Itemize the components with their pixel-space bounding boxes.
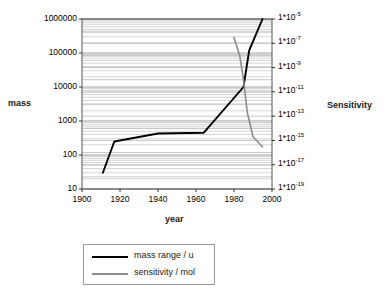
y-tick-label: 10: [18, 184, 77, 193]
legend-item-mass-range: mass range / u: [84, 249, 214, 266]
y-tick-label: 1000000: [18, 14, 77, 23]
legend-swatch-sensitivity: [92, 273, 128, 275]
x-tick-label: 2000: [252, 195, 292, 204]
y2-tick-label: 1*10-9: [278, 62, 301, 71]
y2-tick-label: 1*10-19: [278, 183, 304, 192]
y-tick-label: 1000: [18, 116, 77, 125]
axis-tick-marks: [79, 19, 275, 192]
series-lines: [103, 19, 263, 173]
x-tick-label: 1900: [62, 195, 102, 204]
y-tick-label: 100000: [18, 48, 77, 57]
y2-tick-label: 1*10-15: [278, 134, 304, 143]
legend-label-sensitivity: sensitivity / mol: [134, 267, 195, 277]
y-tick-label: 100: [18, 150, 77, 159]
y2-tick-label: 1*10-17: [278, 159, 304, 168]
x-tick-label: 1940: [138, 195, 178, 204]
y2-tick-label: 1*10-7: [278, 37, 301, 46]
chart-figure: mass Sensitivity year 101001000100001000…: [0, 0, 391, 292]
y-tick-label: 10000: [18, 82, 77, 91]
x-tick-label: 1960: [176, 195, 216, 204]
gridlines-minor: [82, 19, 272, 189]
legend-swatch-mass-range: [92, 256, 128, 258]
x-tick-label: 1980: [214, 195, 254, 204]
series-line-mass-range: [103, 19, 263, 173]
y2-tick-label: 1*10-5: [278, 13, 301, 22]
legend-item-sensitivity: sensitivity / mol: [84, 266, 214, 283]
chart-legend: mass range / u sensitivity / mol: [83, 244, 215, 285]
legend-label-mass-range: mass range / u: [134, 250, 194, 260]
y2-tick-label: 1*10-13: [278, 110, 304, 119]
y2-tick-label: 1*10-11: [278, 86, 304, 95]
x-tick-label: 1920: [100, 195, 140, 204]
